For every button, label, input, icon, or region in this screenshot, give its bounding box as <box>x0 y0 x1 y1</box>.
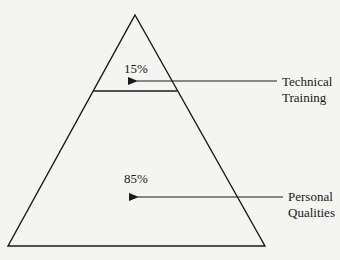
pyramid-outline <box>8 15 265 246</box>
personal-qualities-label-line1: Personal <box>288 189 333 204</box>
technical-training-label-line2: Training <box>282 90 326 105</box>
bottom-level-percent: 85% <box>124 171 148 186</box>
personal-qualities-label-line2: Qualities <box>288 205 335 220</box>
pyramid-diagram: 15% 85% Technical Training Personal Qual… <box>0 0 340 260</box>
top-level-percent: 15% <box>124 61 148 76</box>
pyramid-graphic <box>0 0 340 260</box>
technical-training-label-line1: Technical <box>282 74 332 89</box>
